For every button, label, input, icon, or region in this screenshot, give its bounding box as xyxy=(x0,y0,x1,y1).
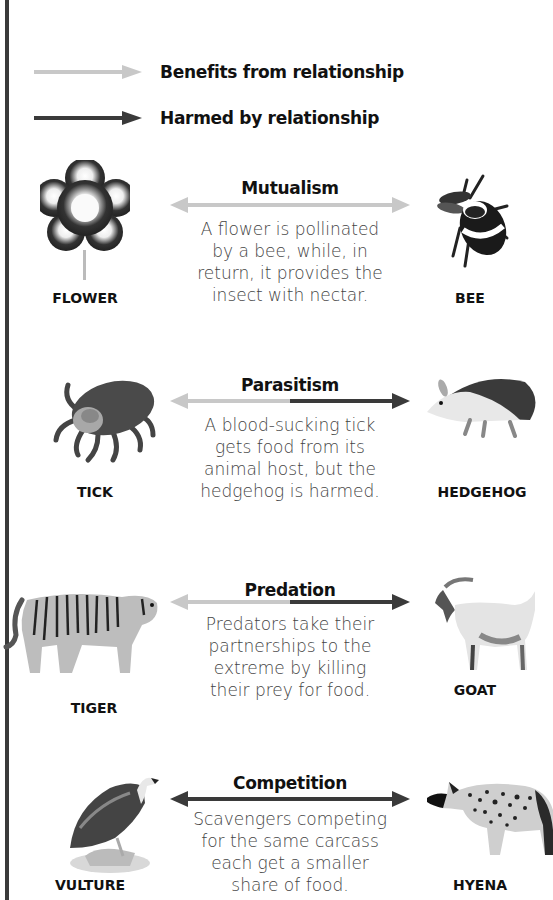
hedgehog-icon xyxy=(425,370,540,445)
relationship-description: Predators take their partnerships to the… xyxy=(175,613,405,701)
flower-icon xyxy=(40,160,130,280)
legend-benefit: Benefits from relationship xyxy=(34,62,404,82)
benefit-harm-arrow-icon xyxy=(170,393,410,409)
benefit-arrow-icon xyxy=(34,65,142,79)
bee-icon xyxy=(425,168,520,268)
animal-label-hyena: HYENA xyxy=(420,877,540,893)
tiger-icon xyxy=(2,585,162,675)
animal-label-bee: BEE xyxy=(410,290,530,306)
animal-label-vulture: VULTURE xyxy=(30,877,150,893)
relationship-description: Scavengers competing for the same carcas… xyxy=(175,808,405,896)
animal-label-hedgehog: HEDGEHOG xyxy=(422,484,542,500)
relationship-title: Parasitism xyxy=(170,375,410,395)
relationship-title: Mutualism xyxy=(170,178,410,198)
relationship-title: Competition xyxy=(170,773,410,793)
benefit-harm-arrow-icon xyxy=(170,594,410,610)
tick-icon xyxy=(48,370,158,465)
double-harm-arrow-icon xyxy=(170,791,410,807)
legend-harmed: Harmed by relationship xyxy=(34,108,379,128)
relationship-description: A blood-sucking tick gets food from its … xyxy=(175,414,405,502)
goat-icon xyxy=(425,575,535,675)
hyena-icon xyxy=(425,770,553,860)
left-border-line xyxy=(5,0,9,900)
animal-label-tick: TICK xyxy=(35,484,155,500)
animal-label-flower: FLOWER xyxy=(25,290,145,306)
vulture-icon xyxy=(55,768,160,873)
legend-harmed-label: Harmed by relationship xyxy=(160,108,379,128)
double-benefit-arrow-icon xyxy=(170,197,410,213)
relationship-description: A flower is pollinated by a bee, while, … xyxy=(175,218,405,306)
harmed-arrow-icon xyxy=(34,111,142,125)
legend-benefit-label: Benefits from relationship xyxy=(160,62,404,82)
animal-label-tiger: TIGER xyxy=(34,700,154,716)
animal-label-goat: GOAT xyxy=(415,682,535,698)
